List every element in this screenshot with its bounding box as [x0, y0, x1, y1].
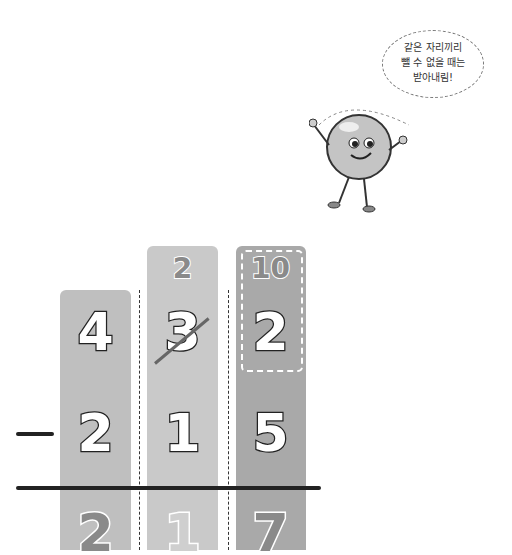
answer-tens-digit: 1 — [147, 505, 218, 555]
speech-bubble-text: 같은 자리끼리 뺄 수 없을 때는 받아내림! — [382, 40, 484, 85]
bubble-line: 같은 자리끼리 — [382, 40, 484, 55]
minus-sign — [16, 432, 54, 436]
bubble-line: 받아내림! — [382, 70, 484, 85]
result-line — [16, 486, 321, 490]
sub-hundreds-digit: 2 — [60, 405, 131, 461]
borrow-tens-digit: 2 — [147, 254, 218, 284]
borrow-ones-digit: 10 — [235, 254, 306, 284]
top-hundreds-digit: 4 — [60, 304, 131, 360]
answer-ones-digit: 7 — [235, 505, 306, 555]
mascot-character-icon — [309, 105, 419, 220]
sub-ones-digit: 5 — [235, 405, 306, 461]
sub-tens-digit: 1 — [147, 405, 218, 461]
column-divider — [228, 290, 229, 550]
top-tens-digit: 3 — [147, 304, 218, 360]
top-ones-digit: 2 — [235, 304, 306, 360]
answer-hundreds-digit: 2 — [60, 505, 131, 555]
column-divider — [139, 290, 140, 550]
bubble-line: 뺄 수 없을 때는 — [382, 55, 484, 70]
